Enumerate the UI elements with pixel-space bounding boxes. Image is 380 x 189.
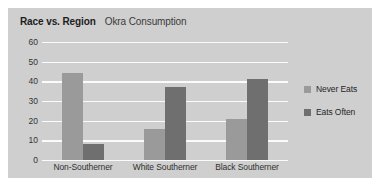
bar[interactable] [165,87,186,160]
x-axis: Non-SouthernerWhite SouthernerBlack Sout… [42,162,288,176]
bar-group [206,42,288,160]
legend-swatch-icon [304,86,311,93]
chart-legend: Never EatsEats Often [304,84,374,130]
x-axis-label: Black Southerner [215,162,279,172]
y-tick-label: 0 [33,155,38,165]
grid-canvas [42,42,288,160]
y-tick-label: 10 [29,135,38,145]
chart-title: Race vs. Region [20,16,96,27]
chart-card: Race vs. Region Okra Consumption 6050403… [8,8,372,178]
legend-swatch-icon [304,109,311,116]
y-tick-label: 20 [29,116,38,126]
y-tick-label: 30 [29,96,38,106]
chart-title-row: Race vs. Region Okra Consumption [20,16,187,32]
y-tick-label: 60 [29,37,38,47]
bar[interactable] [226,119,247,160]
bar[interactable] [144,129,165,160]
y-axis: 6050403020100 [20,42,40,160]
plot-area: 6050403020100 Non-SouthernerWhite Southe… [20,42,288,160]
bar[interactable] [62,73,83,160]
legend-item[interactable]: Never Eats [304,84,374,94]
bar[interactable] [83,144,104,160]
legend-item[interactable]: Eats Often [304,107,374,117]
bars-layer [42,42,288,160]
x-axis-label: Non-Southerner [53,162,112,172]
x-axis-label: White Southerner [133,162,198,172]
legend-label: Eats Often [316,107,355,117]
y-tick-label: 50 [29,57,38,67]
y-tick-label: 40 [29,76,38,86]
bar-group [42,42,124,160]
chart-subtitle: Okra Consumption [105,16,187,27]
legend-label: Never Eats [316,84,357,94]
bar[interactable] [247,79,268,160]
bar-group [124,42,206,160]
